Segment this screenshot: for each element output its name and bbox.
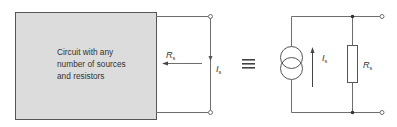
- source-current-arrow-head-icon: [311, 47, 315, 53]
- right-rs-label: Rs: [363, 60, 373, 71]
- equivalence-icon: [242, 59, 255, 69]
- top-junction-dot: [351, 15, 355, 19]
- bottom-junction-dot: [351, 111, 355, 115]
- short-circuit-current-arrow-icon: [209, 56, 213, 61]
- circuit-diagram: Circuit with any number of sources and r…: [0, 0, 397, 127]
- right-is-label: Is: [322, 53, 328, 64]
- left-top-terminal: [209, 15, 213, 19]
- resistance-arrow-head-icon: [162, 62, 168, 66]
- current-source-icon: [281, 47, 303, 80]
- resistor-icon: [348, 46, 358, 83]
- right-top-terminal: [380, 15, 384, 19]
- left-rs-label: Rs: [166, 50, 176, 61]
- right-bottom-terminal: [380, 111, 384, 115]
- left-bottom-terminal: [209, 111, 213, 115]
- circuit-block-text-line-1: Circuit with any: [57, 47, 114, 57]
- circuit-block-text-line-2: number of sources: [57, 59, 126, 69]
- circuit-block-text-line-3: and resistors: [57, 71, 105, 81]
- left-is-label: Is: [216, 64, 222, 75]
